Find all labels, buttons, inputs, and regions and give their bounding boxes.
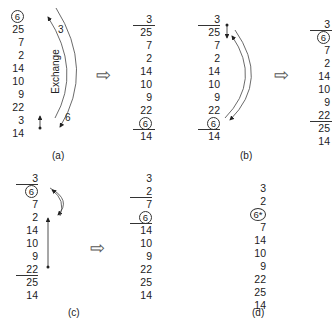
exchange-arrow-icon xyxy=(50,188,63,216)
arrows-overlay xyxy=(0,0,334,330)
exchange-arrow-icon xyxy=(48,8,77,127)
exchange-arrow-icon xyxy=(225,30,251,120)
pointer-up-icon xyxy=(47,218,50,269)
pointer-up-icon xyxy=(39,116,42,130)
pointer-down-icon xyxy=(226,24,229,39)
